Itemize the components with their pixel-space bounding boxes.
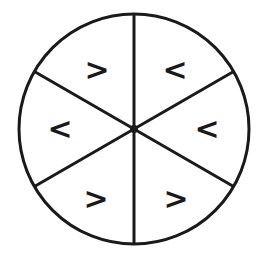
symbol-top-left: >: [84, 52, 109, 87]
symbol-right: <: [194, 111, 219, 146]
sector-circle-diagram: > < < < > >: [0, 0, 264, 257]
symbol-left: <: [47, 111, 72, 146]
center-dot: [130, 125, 138, 133]
symbol-bottom-left: >: [83, 181, 108, 216]
symbol-top-right: <: [162, 52, 187, 87]
symbol-bottom-right: >: [163, 181, 188, 216]
